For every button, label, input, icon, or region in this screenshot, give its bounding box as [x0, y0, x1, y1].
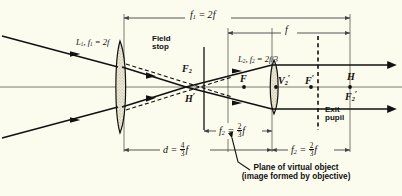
dimension-label-f1: f1 = 2f: [190, 10, 215, 21]
caption-line-2: (image formed by objective): [242, 172, 351, 181]
dimension-label-f: f: [285, 25, 288, 36]
point-label-H: H: [347, 72, 355, 83]
figure-caption: Plane of virtual object (image formed by…: [196, 164, 396, 181]
dimension-line-f: [228, 26, 350, 40]
dimension-label-d: d = 43f: [163, 142, 188, 158]
exit-pupil-label: Exit pupil: [325, 106, 344, 123]
dimension-label-f2-mid: f2 = 23f: [219, 123, 245, 139]
field-stop-label-line2: stop: [152, 42, 169, 51]
exit-pupil-label-line2: pupil: [325, 113, 344, 122]
dimension-line-d: [124, 142, 272, 158]
point-label-H-prime: H′: [185, 92, 195, 104]
lens-label-L1: L1, f1 = 2f: [76, 38, 109, 48]
point-label-F2-prime: F2′: [345, 90, 357, 102]
point-label-F: F: [240, 74, 247, 85]
point-label-V2-prime: V2′: [278, 74, 290, 86]
dimension-line-f1: [124, 11, 350, 25]
point-label-F-prime: F′: [305, 74, 314, 86]
field-stop-label: Field stop: [152, 35, 171, 52]
lens-label-L2: L2, f2 = 2f/3: [238, 55, 278, 65]
dimension-label-f2-right: f2 = 23f: [291, 142, 317, 158]
point-label-F2: F2: [182, 64, 192, 75]
figure-canvas: f1 = 2f f L1, f1 = 2f L2, f2 = 2f/3 Fiel…: [0, 0, 402, 196]
